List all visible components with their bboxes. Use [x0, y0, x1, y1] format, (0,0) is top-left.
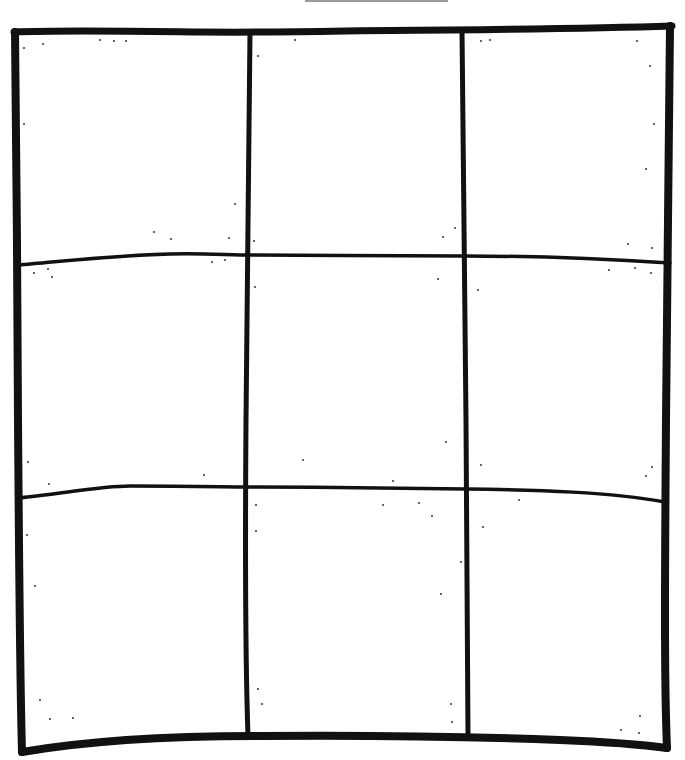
grid-cell-r1-c2	[250, 35, 464, 255]
grid-cell-r1-c1	[20, 35, 248, 263]
frame-top	[14, 26, 672, 32]
grid-cell-r2-c1	[20, 265, 246, 487]
grid-cell-r3-c2	[248, 489, 466, 736]
grid-cell-r2-c3	[468, 260, 666, 490]
grid-cell-r3-c3	[470, 492, 666, 740]
grid-cell-r3-c1	[22, 498, 246, 736]
grid-cell-r2-c2	[248, 258, 464, 487]
grid-cell-r1-c3	[466, 35, 666, 257]
